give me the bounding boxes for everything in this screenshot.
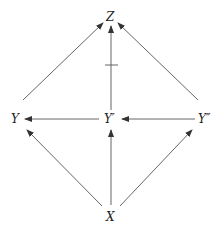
edge-ydoubleprime-to-z [118, 23, 198, 100]
edge-x-to-ydoubleprime [120, 130, 192, 206]
node-yprime: Y′ [104, 113, 115, 125]
node-y: Y [11, 113, 19, 125]
node-z: Z [106, 11, 114, 23]
node-ydoubleprime: Y″ [198, 113, 210, 125]
edge-y-to-z [23, 23, 103, 100]
edge-x-to-y [27, 130, 102, 206]
node-x: X [106, 211, 115, 223]
